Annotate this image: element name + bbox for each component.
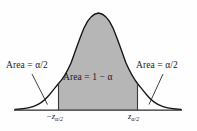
right-area-leader-line	[149, 74, 163, 105]
left-tail-area-label: Area = α/2	[6, 61, 48, 71]
left-critical-value-tick-label: −zα/2	[46, 112, 63, 122]
normal-distribution-figure: Area = α/2 Area = α/2 Area = 1 − α −zα/2…	[0, 0, 197, 131]
left-area-leader-line	[32, 74, 48, 105]
tick-left-subscript: α/2	[55, 116, 63, 122]
tick-right-subscript: α/2	[131, 116, 139, 122]
central-area-label: Area = 1 − α	[63, 73, 113, 83]
right-tail-area-label: Area = α/2	[136, 61, 178, 71]
right-critical-value-tick-label: zα/2	[128, 112, 139, 122]
